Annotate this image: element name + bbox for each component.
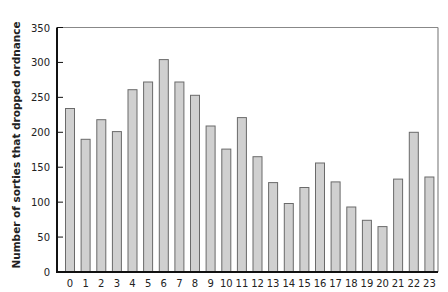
bar	[378, 227, 387, 272]
x-tick-label: 13	[267, 278, 280, 289]
bar	[159, 60, 168, 272]
x-tick-label: 9	[207, 278, 213, 289]
bar	[269, 183, 278, 272]
bar	[112, 132, 121, 272]
y-tick-label: 0	[44, 267, 50, 278]
bar	[253, 157, 262, 272]
x-tick-label: 14	[282, 278, 295, 289]
x-tick-label: 1	[82, 278, 88, 289]
x-tick-label: 22	[407, 278, 420, 289]
y-tick-label: 100	[31, 197, 50, 208]
y-tick-label: 350	[31, 23, 50, 34]
y-tick-label: 150	[31, 162, 50, 173]
bar	[191, 95, 200, 272]
bar	[175, 82, 184, 272]
x-tick-label: 12	[251, 278, 264, 289]
bar	[128, 90, 137, 272]
x-tick-label: 17	[329, 278, 342, 289]
bar	[347, 207, 356, 272]
bar	[81, 139, 90, 272]
bar	[300, 188, 309, 273]
bar	[206, 126, 215, 272]
bar	[284, 204, 293, 273]
bar	[425, 177, 434, 272]
x-tick-label: 20	[376, 278, 389, 289]
bar	[97, 120, 106, 272]
x-tick-label: 19	[361, 278, 374, 289]
x-tick-label: 11	[236, 278, 249, 289]
bar	[394, 179, 403, 272]
bar	[362, 220, 371, 272]
x-tick-label: 4	[129, 278, 135, 289]
bar	[237, 118, 246, 272]
y-tick-label: 250	[31, 92, 50, 103]
x-tick-label: 3	[114, 278, 120, 289]
x-tick-label: 15	[298, 278, 311, 289]
bar	[409, 132, 418, 272]
y-tick-label: 50	[37, 232, 50, 243]
x-tick-label: 6	[161, 278, 167, 289]
chart-canvas: 0123456789101112131415161718192021222305…	[0, 0, 448, 292]
x-tick-label: 7	[176, 278, 182, 289]
bar-chart: 0123456789101112131415161718192021222305…	[0, 0, 448, 292]
x-tick-label: 23	[423, 278, 436, 289]
x-tick-label: 21	[392, 278, 405, 289]
x-tick-label: 18	[345, 278, 358, 289]
bar	[66, 109, 75, 273]
bar	[222, 149, 231, 272]
x-tick-label: 5	[145, 278, 151, 289]
x-tick-label: 16	[314, 278, 327, 289]
y-axis-label: Number of sorties that dropped ordnance	[10, 10, 24, 280]
y-tick-label: 300	[31, 57, 50, 68]
bar	[316, 163, 325, 272]
x-tick-label: 0	[67, 278, 73, 289]
x-tick-label: 8	[192, 278, 198, 289]
bar	[331, 182, 340, 272]
x-tick-label: 10	[220, 278, 233, 289]
bar	[144, 82, 153, 272]
y-tick-label: 200	[31, 127, 50, 138]
x-tick-label: 2	[98, 278, 104, 289]
